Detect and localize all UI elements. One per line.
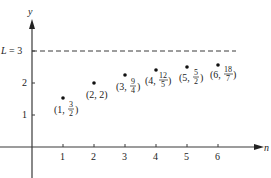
svg-text:5: 5 bbox=[194, 68, 198, 77]
y-tick-label-1: 1 bbox=[22, 109, 27, 120]
data-point-6 bbox=[216, 63, 220, 67]
limit-label: L = 3 bbox=[0, 45, 22, 56]
svg-text:18: 18 bbox=[224, 65, 232, 74]
svg-text:2: 2 bbox=[69, 109, 73, 118]
point-label-5: (5, 5 2 ) bbox=[179, 68, 203, 86]
svg-text:): ) bbox=[200, 72, 203, 84]
svg-text:5: 5 bbox=[161, 80, 165, 89]
data-point-5 bbox=[185, 65, 189, 69]
svg-text:9: 9 bbox=[131, 77, 135, 86]
svg-text:4: 4 bbox=[131, 86, 135, 95]
svg-text:7: 7 bbox=[226, 74, 230, 83]
svg-text:2: 2 bbox=[194, 77, 198, 86]
svg-text:(3,: (3, bbox=[116, 81, 127, 93]
svg-text:): ) bbox=[75, 104, 78, 116]
x-tick-label-6: 6 bbox=[215, 151, 220, 162]
data-point-3 bbox=[123, 73, 127, 77]
data-point-2 bbox=[92, 81, 96, 85]
svg-text:(5,: (5, bbox=[179, 72, 190, 84]
x-tick-label-1: 1 bbox=[60, 151, 65, 162]
svg-text:(6,: (6, bbox=[210, 69, 221, 81]
point-label-4: (4, 12 5 ) bbox=[145, 71, 171, 89]
x-axis-label: n bbox=[264, 142, 269, 153]
x-tick-label-2: 2 bbox=[91, 151, 96, 162]
sequence-plot: n y L = 3 2 1 1 2 3 4 5 6 (1, 3 2 ) (2, … bbox=[0, 0, 271, 178]
svg-text:(1,: (1, bbox=[54, 104, 65, 116]
data-point-1 bbox=[61, 96, 65, 100]
point-label-6: (6, 18 7 ) bbox=[210, 65, 236, 83]
point-label-2: (2, 2) bbox=[86, 89, 108, 101]
x-axis-arrow-icon bbox=[254, 144, 264, 150]
svg-text:(4,: (4, bbox=[145, 75, 156, 87]
y-tick-label-2: 2 bbox=[22, 77, 27, 88]
x-tick-label-5: 5 bbox=[184, 151, 189, 162]
x-tick-label-4: 4 bbox=[153, 151, 158, 162]
svg-text:12: 12 bbox=[159, 71, 167, 80]
svg-text:): ) bbox=[168, 75, 171, 87]
x-tick-label-3: 3 bbox=[122, 151, 127, 162]
point-label-1: (1, 3 2 ) bbox=[54, 100, 78, 118]
data-point-4 bbox=[154, 68, 158, 72]
y-axis-arrow-icon bbox=[29, 19, 35, 29]
y-axis-label: y bbox=[27, 6, 33, 17]
point-label-3: (3, 9 4 ) bbox=[116, 77, 140, 95]
svg-text:3: 3 bbox=[69, 100, 73, 109]
svg-text:): ) bbox=[137, 81, 140, 93]
svg-text:(2, 2): (2, 2) bbox=[86, 89, 108, 101]
svg-text:): ) bbox=[233, 69, 236, 81]
